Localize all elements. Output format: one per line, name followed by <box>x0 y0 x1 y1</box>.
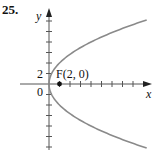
y-tick-label: 2 <box>37 67 43 81</box>
axes <box>20 12 145 150</box>
x-axis-label: x <box>145 87 152 101</box>
focus-label: F(2, 0) <box>56 67 89 81</box>
focus-point <box>57 82 62 87</box>
parabola-chart: y x 2 0 F(2, 0) <box>0 0 162 155</box>
origin-label: 0 <box>37 85 43 99</box>
y-axis-label: y <box>35 9 42 23</box>
y-axis-arrow-icon <box>46 8 52 17</box>
